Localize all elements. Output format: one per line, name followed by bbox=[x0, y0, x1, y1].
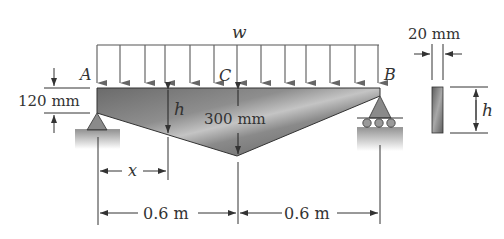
distributed-load: w bbox=[97, 22, 379, 83]
load-arrows bbox=[97, 45, 378, 83]
cross-section: 20 mm h bbox=[408, 25, 493, 133]
point-label-a: A bbox=[78, 65, 92, 84]
section-height-label: h bbox=[482, 100, 493, 120]
point-label-c: C bbox=[219, 66, 231, 85]
left-span-label: 0.6 m bbox=[143, 204, 189, 223]
section-width-label: 20 mm bbox=[408, 25, 460, 43]
end-depth-label: 120 mm bbox=[18, 92, 80, 110]
section-rectangle bbox=[432, 87, 443, 133]
point-label-b: B bbox=[383, 65, 396, 84]
beam-diagram: w A C B h 300 mm 120 mm bbox=[0, 0, 504, 239]
load-label-w: w bbox=[232, 22, 247, 42]
depth-h-label: h bbox=[174, 99, 185, 119]
roller-support-b bbox=[357, 96, 403, 151]
right-span-label: 0.6 m bbox=[284, 204, 330, 223]
position-x-label: x bbox=[128, 161, 137, 180]
mid-depth-label: 300 mm bbox=[204, 110, 266, 128]
